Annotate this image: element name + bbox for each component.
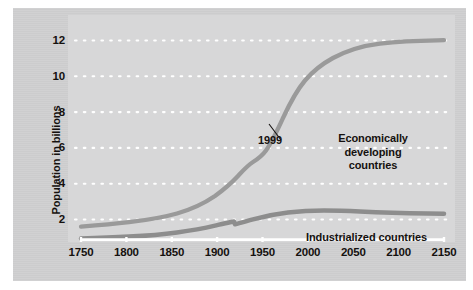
x-tick-label: 2100 — [379, 246, 419, 258]
x-tick-label: 1750 — [61, 246, 101, 258]
y-tick-label: 10 — [43, 71, 65, 82]
annotation-developing-line-3: countries — [318, 159, 428, 173]
x-tick-label: 1800 — [106, 246, 146, 258]
annotation-developing-line-2: developing — [318, 146, 428, 160]
chart-figure: Population in billions 12 10 8 6 4 2 — [13, 8, 466, 281]
y-axis-tick-labels: 12 10 8 6 4 2 — [33, 15, 65, 242]
x-axis-tick-labels: 1750 1800 1850 1900 1950 2000 2050 2100 … — [68, 246, 455, 266]
annotation-year-1999: 1999 — [258, 134, 282, 146]
x-tick-label: 1950 — [243, 246, 283, 258]
x-tick-label: 2150 — [424, 246, 464, 258]
plot-area — [68, 15, 455, 242]
annotation-industrialized-countries: Industrialized countries — [306, 231, 427, 243]
chart-svg — [68, 15, 455, 242]
x-tick-label: 1900 — [197, 246, 237, 258]
y-tick-label: 12 — [43, 35, 65, 46]
x-tick-label: 2000 — [288, 246, 328, 258]
gridlines — [75, 41, 451, 220]
x-tick-label: 2050 — [333, 246, 373, 258]
annotation-developing-countries: Economically developing countries — [318, 132, 428, 173]
y-tick-label: 2 — [43, 214, 65, 225]
y-tick-label: 8 — [43, 107, 65, 118]
y-tick-label: 6 — [43, 142, 65, 153]
y-tick-label: 4 — [43, 178, 65, 189]
annotation-developing-line-1: Economically — [318, 132, 428, 146]
x-tick-label: 1850 — [152, 246, 192, 258]
